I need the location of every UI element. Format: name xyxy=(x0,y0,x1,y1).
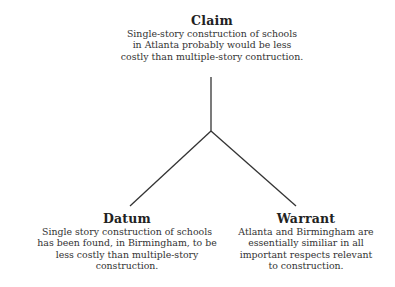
warrant-line: to construction. xyxy=(228,260,384,271)
claim-line: in Atlanta probably would be less xyxy=(112,39,312,50)
datum-line: has been found, in Birmingham, to be xyxy=(34,237,220,248)
claim-node: Claim Single-story construction of schoo… xyxy=(112,14,312,62)
claim-text: Single-story construction of schools in … xyxy=(112,28,312,62)
warrant-title: Warrant xyxy=(228,212,384,226)
datum-title: Datum xyxy=(34,212,220,226)
datum-node: Datum Single story construction of schoo… xyxy=(34,212,220,271)
warrant-connector xyxy=(211,131,296,206)
datum-line: construction. xyxy=(34,260,220,271)
claim-line: Single-story construction of schools xyxy=(112,28,312,39)
datum-line: less costly than multiple-story xyxy=(34,249,220,260)
claim-line: costly than multiple-story contruction. xyxy=(112,51,312,62)
warrant-line: important respects relevant xyxy=(228,249,384,260)
claim-title: Claim xyxy=(112,14,312,28)
datum-line: Single story construction of schools xyxy=(34,226,220,237)
warrant-line: Atlanta and Birmingham are xyxy=(228,226,384,237)
datum-connector xyxy=(130,131,211,206)
datum-text: Single story construction of schools has… xyxy=(34,226,220,271)
warrant-node: Warrant Atlanta and Birmingham are essen… xyxy=(228,212,384,271)
warrant-text: Atlanta and Birmingham are essentially s… xyxy=(228,226,384,271)
warrant-line: essentially similiar in all xyxy=(228,237,384,248)
